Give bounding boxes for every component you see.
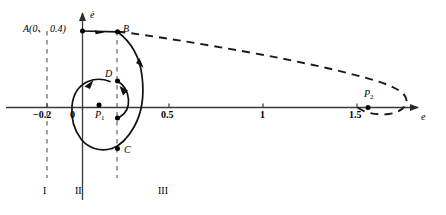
region-label-III: III xyxy=(158,186,168,196)
point-label-P1-subscript: 1 xyxy=(101,114,105,122)
x-tick-label-0: 0 xyxy=(70,110,75,120)
point-label-P1: P1 xyxy=(95,110,105,120)
region-label-I: I xyxy=(43,186,46,196)
point-A xyxy=(80,29,85,34)
point-label-P2: P2 xyxy=(364,89,374,99)
point-E-inner xyxy=(115,116,120,121)
trajectory-direction-arrows xyxy=(85,30,144,95)
x-axis-label: e xyxy=(421,112,425,122)
point-label-D: D xyxy=(105,69,112,79)
region-label-II: II xyxy=(75,186,82,196)
coordinate-label-A: A(0、 0.4) xyxy=(23,24,66,34)
x-tick-label-1: 1 xyxy=(260,110,265,120)
y-axis-label: ė xyxy=(90,10,94,20)
phase-plane-figure: A(0、 0.4) ė e −0.2 0 0.5 1 1.5 B C D P1 … xyxy=(0,0,446,215)
point-C xyxy=(115,146,120,151)
x-tick-label-neg-0-2: −0.2 xyxy=(33,110,51,120)
point-P2 xyxy=(366,105,371,110)
axes-group xyxy=(6,13,418,200)
x-tick-label-1-5: 1.5 xyxy=(349,110,362,120)
phase-plane-plot xyxy=(0,0,446,215)
x-tick-label-0-5: 0.5 xyxy=(161,110,174,120)
point-P1 xyxy=(97,103,102,108)
point-label-B: B xyxy=(123,24,129,34)
point-B xyxy=(115,29,120,34)
separatrix-dashed-curve xyxy=(118,32,407,115)
point-label-P2-subscript: 2 xyxy=(370,93,374,101)
point-label-C: C xyxy=(124,145,131,155)
point-D xyxy=(115,79,120,84)
